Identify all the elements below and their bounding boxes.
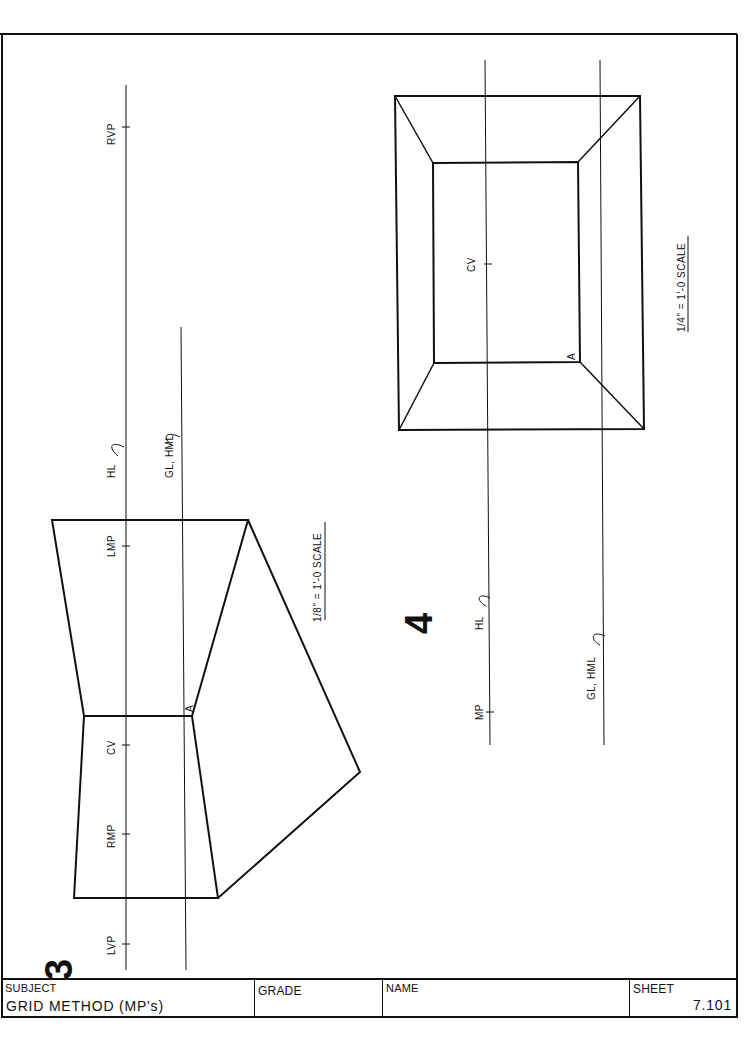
p3-floor-plane [218,520,360,898]
p3-label-rvp: RVP [106,123,117,145]
p4-label-gl-hml: GL, HML [586,656,597,700]
p3-label-hl: HL [106,464,117,478]
problem3-diagram [52,85,360,970]
p4-label-hl: HL [474,616,485,630]
p3-label-gl-hml: GL, HML [164,434,175,478]
p4-label-cv: CV [466,257,477,272]
p4-label-mp: MP [474,704,485,720]
drawing-sheet [0,0,754,1045]
sheet-cell: SHEET 7.101 [629,980,738,1016]
p3-label-cv: CV [106,740,117,755]
p4-inner-frame [433,162,580,363]
subject-label: SUBJECT [5,982,57,994]
sheet-number: 7.101 [693,997,732,1013]
sheet-border [0,34,737,1018]
title-block: SUBJECT GRID METHOD (MP's) GRADE NAME SH… [2,978,738,1018]
p3-ground-line [181,327,186,970]
p4-outer-frame [395,96,644,430]
problem3-number: 3 [38,959,81,980]
problem4-diagram [395,60,688,745]
subject-cell: SUBJECT GRID METHOD (MP's) [2,980,254,1016]
p3-scale-note: 1/8" = 1'-0 SCALE [312,533,323,622]
p4-label-point-a: A [566,353,577,360]
grade-label: GRADE [258,984,302,998]
p4-scale-note: 1/4" = 1'-0 SCALE [676,243,687,332]
p3-label-lvp: LVP [106,935,117,955]
name-cell[interactable]: NAME [382,980,629,1016]
sheet-label: SHEET [633,982,674,996]
p3-label-rmp: RMP [106,824,117,848]
p3-left-wall [74,716,218,898]
p3-label-lmp: LMP [106,535,117,557]
p4-ground-line [600,60,604,745]
name-label: NAME [386,982,419,994]
p3-label-point-a: A [184,705,195,712]
subject-value: GRID METHOD (MP's) [6,998,164,1014]
p3-right-wall [52,520,248,716]
grade-cell[interactable]: GRADE [254,980,382,1016]
problem4-number: 4 [398,613,441,634]
